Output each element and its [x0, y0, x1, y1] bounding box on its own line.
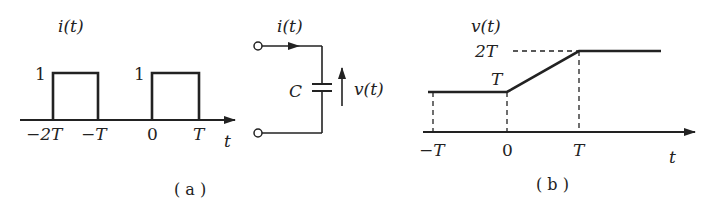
- tick-label-zero: 0: [147, 124, 158, 144]
- tick-label-minus-T: −T: [419, 140, 446, 160]
- figure-b-ylabel: v(t): [471, 16, 501, 36]
- pulse-1-level-label: 1: [35, 64, 46, 84]
- level-label-T: T: [491, 69, 504, 89]
- voltage-waveform: [428, 51, 661, 92]
- pulse-1: [53, 73, 98, 120]
- tick-label-T: T: [573, 140, 586, 160]
- figure-b-caption: ( b ): [536, 175, 569, 194]
- capacitor-circuit: i(t) C v(t): [254, 16, 384, 137]
- figure-b: v(t) 2T T −T 0 T t ( b ): [419, 16, 695, 194]
- pulse-2: [152, 73, 199, 120]
- tick-label-minus-T: −T: [81, 124, 108, 144]
- level-label-2T: 2T: [474, 41, 499, 61]
- pulse-2-level-label: 1: [134, 64, 145, 84]
- current-arrow-icon: [288, 42, 300, 50]
- figure-a-ylabel: i(t): [58, 16, 84, 36]
- tick-label-zero: 0: [502, 140, 513, 160]
- figure-a-xlabel: t: [224, 131, 231, 151]
- bottom-terminal: [254, 129, 262, 137]
- capacitor-label: C: [289, 81, 302, 101]
- diagram-canvas: i(t) 1 1 −2T −T 0 T t ( a ) i(t) C v(t) …: [0, 0, 709, 215]
- figure-b-xlabel: t: [669, 147, 676, 167]
- voltage-label: v(t): [354, 79, 384, 99]
- tick-label-minus-2T: −2T: [26, 124, 64, 144]
- tick-label-T: T: [193, 124, 206, 144]
- current-label: i(t): [277, 16, 303, 36]
- top-terminal: [254, 42, 262, 50]
- figure-a-caption: ( a ): [174, 180, 206, 199]
- figure-a: i(t) 1 1 −2T −T 0 T t ( a ): [20, 16, 235, 199]
